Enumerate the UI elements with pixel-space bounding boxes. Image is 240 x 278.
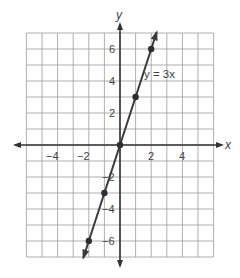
x-tick-label: −2 [77, 150, 90, 162]
x-tick-label: 4 [179, 150, 185, 162]
x-axis-label: x [224, 138, 232, 152]
data-point [117, 142, 123, 148]
x-axis-right-arrow-icon [216, 142, 224, 148]
y-axis-label: y [115, 8, 123, 22]
y-axis-up-arrow-icon [117, 22, 123, 30]
y-axis-down-arrow-icon [117, 260, 123, 268]
line-arrow-down-icon [82, 249, 89, 260]
y-tick-label: 6 [109, 43, 115, 55]
x-tick-label: −4 [46, 150, 59, 162]
y-tick-label: 2 [109, 107, 115, 119]
y-tick-label: −6 [102, 235, 115, 247]
coordinate-plane-chart: x y −4 −2 2 4 6 4 2 −2 −4 −6 y = 3x [0, 0, 240, 278]
data-point [101, 190, 107, 196]
y-tick-label: 4 [109, 75, 115, 87]
data-point [148, 46, 154, 52]
y-tick-label: −4 [102, 203, 115, 215]
line-arrow-up-icon [151, 30, 158, 41]
equation-label: y = 3x [144, 68, 175, 80]
x-axis-left-arrow-icon [13, 142, 21, 148]
data-point [86, 238, 92, 244]
x-tick-label: 2 [148, 150, 154, 162]
data-point [132, 94, 138, 100]
